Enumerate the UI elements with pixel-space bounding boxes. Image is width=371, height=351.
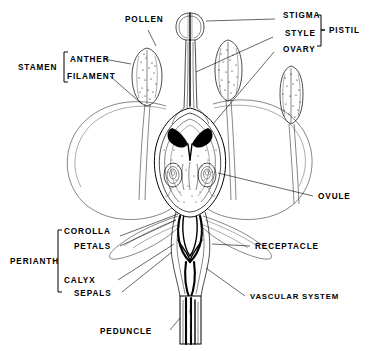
leader-ovary [213,52,274,124]
leader-peduncle [170,318,180,330]
pollen-grains-right [282,73,300,117]
leader-receptacle [212,244,250,246]
flower-diagram: POLLEN STAMEN ANTHER FILAMENT STIGMA STY… [0,0,371,351]
label-perianth: PERIANTH [10,257,59,266]
leader-ovule [218,173,313,196]
label-pistil: PISTIL [329,26,360,35]
leader-pollen [148,30,156,46]
label-receptacle: RECEPTACLE [255,242,319,251]
ovary [154,108,225,217]
label-vascular-system: VASCULAR SYSTEM [250,292,339,301]
peduncle [180,296,201,344]
label-calyx: CALYX [64,276,96,285]
pollen-grains-left [138,53,156,99]
stamen-far-right [280,66,303,204]
leader-stigma [206,19,275,21]
label-pollen: POLLEN [125,15,164,24]
leader-sepals [122,252,172,292]
leader-vascular [206,268,245,296]
label-peduncle: PEDUNCLE [100,327,152,336]
label-filament: FILAMENT [67,72,116,81]
label-corolla: COROLLA [64,227,111,236]
sepal-right [201,216,272,259]
label-petals: PETALS [74,242,111,251]
diagram-canvas: POLLEN STAMEN ANTHER FILAMENT STIGMA STY… [0,0,371,351]
stigma [176,13,204,40]
label-anther: ANTHER [70,55,110,64]
label-ovule: OVULE [318,192,351,201]
label-sepals: SEPALS [74,289,112,298]
label-style: STYLE [285,29,316,38]
label-stamen: STAMEN [18,63,57,72]
label-ovary: OVARY [283,45,316,54]
sepal-left [110,216,181,259]
label-stigma: STIGMA [283,11,320,20]
